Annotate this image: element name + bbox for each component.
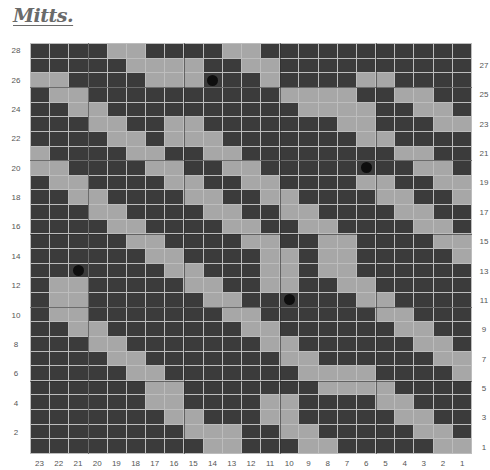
chart-cell bbox=[338, 439, 356, 453]
chart-cell bbox=[184, 88, 202, 102]
chart-cell bbox=[299, 322, 317, 336]
chart-cell bbox=[223, 161, 241, 175]
chart-cell bbox=[108, 308, 126, 322]
chart-cell bbox=[89, 278, 107, 292]
row-label-left: 22 bbox=[6, 134, 26, 143]
chart-cell bbox=[280, 337, 298, 351]
chart-cell bbox=[338, 117, 356, 131]
chart-cell bbox=[50, 337, 68, 351]
chart-cell bbox=[108, 88, 126, 102]
chart-cell bbox=[204, 190, 222, 204]
column-label: 23 bbox=[30, 459, 49, 468]
chart-cell bbox=[319, 322, 337, 336]
chart-cell bbox=[69, 366, 87, 380]
chart-cell bbox=[434, 381, 452, 395]
chart-cell bbox=[223, 103, 241, 117]
chart-cell bbox=[414, 161, 432, 175]
chart-cell bbox=[69, 59, 87, 73]
chart-cell bbox=[165, 220, 183, 234]
chart-cell bbox=[165, 308, 183, 322]
chart-cell bbox=[31, 103, 49, 117]
chart-cell bbox=[165, 117, 183, 131]
chart-cell bbox=[146, 103, 164, 117]
chart-cell bbox=[242, 176, 260, 190]
chart-cell bbox=[204, 425, 222, 439]
chart-cell bbox=[261, 366, 279, 380]
column-label: 17 bbox=[145, 459, 164, 468]
chart-cell bbox=[434, 220, 452, 234]
chart-cell bbox=[223, 337, 241, 351]
chart-cell bbox=[31, 147, 49, 161]
chart-cell bbox=[69, 425, 87, 439]
chart-cell bbox=[184, 132, 202, 146]
chart-cell bbox=[414, 103, 432, 117]
chart-cell bbox=[242, 103, 260, 117]
chart-cell bbox=[357, 337, 375, 351]
chart-cell bbox=[242, 278, 260, 292]
chart-cell bbox=[89, 366, 107, 380]
chart-cell bbox=[108, 249, 126, 263]
chart-cell bbox=[242, 264, 260, 278]
chart-cell bbox=[69, 395, 87, 409]
chart-cell bbox=[338, 103, 356, 117]
chart-cell bbox=[50, 439, 68, 453]
chart-cell bbox=[414, 234, 432, 248]
column-label: 20 bbox=[88, 459, 107, 468]
chart-cell bbox=[261, 308, 279, 322]
chart-cell bbox=[127, 410, 145, 424]
chart-cell bbox=[69, 132, 87, 146]
chart-cell bbox=[319, 176, 337, 190]
chart-cell bbox=[204, 176, 222, 190]
chart-cell bbox=[319, 205, 337, 219]
chart-cell bbox=[376, 59, 394, 73]
chart-cell bbox=[357, 88, 375, 102]
chart-cell bbox=[31, 205, 49, 219]
chart-cell bbox=[127, 73, 145, 87]
chart-cell bbox=[376, 425, 394, 439]
chart-cell bbox=[414, 117, 432, 131]
chart-cell bbox=[31, 132, 49, 146]
row-label-left: 2 bbox=[6, 427, 26, 436]
chart-cell bbox=[280, 293, 298, 307]
chart-cell bbox=[357, 103, 375, 117]
row-label-left: 28 bbox=[6, 46, 26, 55]
chart-cell bbox=[69, 337, 87, 351]
chart-cell bbox=[242, 352, 260, 366]
chart-cell bbox=[127, 293, 145, 307]
chart-cell bbox=[319, 103, 337, 117]
chart-cell bbox=[165, 352, 183, 366]
chart-cell bbox=[242, 293, 260, 307]
chart-cell bbox=[299, 381, 317, 395]
chart-cell bbox=[69, 308, 87, 322]
column-label: 19 bbox=[107, 459, 126, 468]
chart-cell bbox=[453, 264, 471, 278]
chart-cell bbox=[319, 425, 337, 439]
column-label: 3 bbox=[414, 459, 433, 468]
chart-cell bbox=[319, 147, 337, 161]
chart-cell bbox=[395, 264, 413, 278]
chart-cell bbox=[319, 293, 337, 307]
chart-cell bbox=[50, 366, 68, 380]
chart-cell bbox=[376, 249, 394, 263]
chart-cell bbox=[414, 439, 432, 453]
chart-cell bbox=[89, 381, 107, 395]
chart-cell bbox=[280, 132, 298, 146]
row-label-right: 21 bbox=[474, 149, 490, 158]
chart-cell bbox=[299, 264, 317, 278]
chart-cell bbox=[89, 293, 107, 307]
chart-cell bbox=[50, 190, 68, 204]
chart-cell bbox=[338, 88, 356, 102]
chart-cell bbox=[357, 205, 375, 219]
chart-cell bbox=[453, 103, 471, 117]
chart-cell bbox=[414, 322, 432, 336]
chart-cell bbox=[184, 278, 202, 292]
chart-cell bbox=[453, 234, 471, 248]
chart-cell bbox=[184, 264, 202, 278]
chart-cell bbox=[50, 44, 68, 58]
chart-cell bbox=[319, 439, 337, 453]
chart-cell bbox=[127, 395, 145, 409]
chart-cell bbox=[146, 278, 164, 292]
chart-cell bbox=[50, 293, 68, 307]
chart-cell bbox=[69, 88, 87, 102]
chart-cell bbox=[184, 176, 202, 190]
